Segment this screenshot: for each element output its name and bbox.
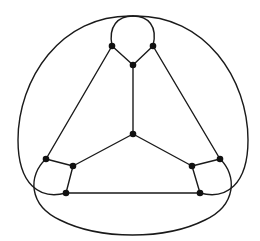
node-center	[130, 131, 137, 138]
node-right-outer	[217, 156, 224, 163]
edge-e-li-lb	[66, 166, 73, 193]
edge-e-lo-bottom-ro	[34, 159, 231, 235]
node-right-bottom	[197, 190, 204, 197]
edge-e-c-li	[73, 134, 133, 166]
edge-e-tr-ro	[153, 46, 220, 159]
graph-edges	[18, 16, 248, 235]
node-top-right	[150, 43, 157, 50]
graph-svg	[0, 0, 260, 241]
edge-e-tr-tc	[133, 46, 153, 65]
node-top-left	[109, 43, 116, 50]
node-top-center	[130, 62, 137, 69]
node-left-bottom	[63, 190, 70, 197]
node-left-outer	[43, 156, 50, 163]
edge-e-tl-lo	[46, 46, 112, 159]
edge-e-ri-ro	[192, 159, 220, 166]
graph-diagram	[0, 0, 260, 241]
edge-e-lo-li	[46, 159, 73, 166]
edge-e-c-ri	[133, 134, 192, 166]
edge-e-ri-rb	[192, 166, 200, 193]
edge-e-tl-tr-arc	[111, 16, 154, 46]
node-right-inner	[189, 163, 196, 170]
node-left-inner	[70, 163, 77, 170]
edge-e-tl-tc	[112, 46, 133, 65]
